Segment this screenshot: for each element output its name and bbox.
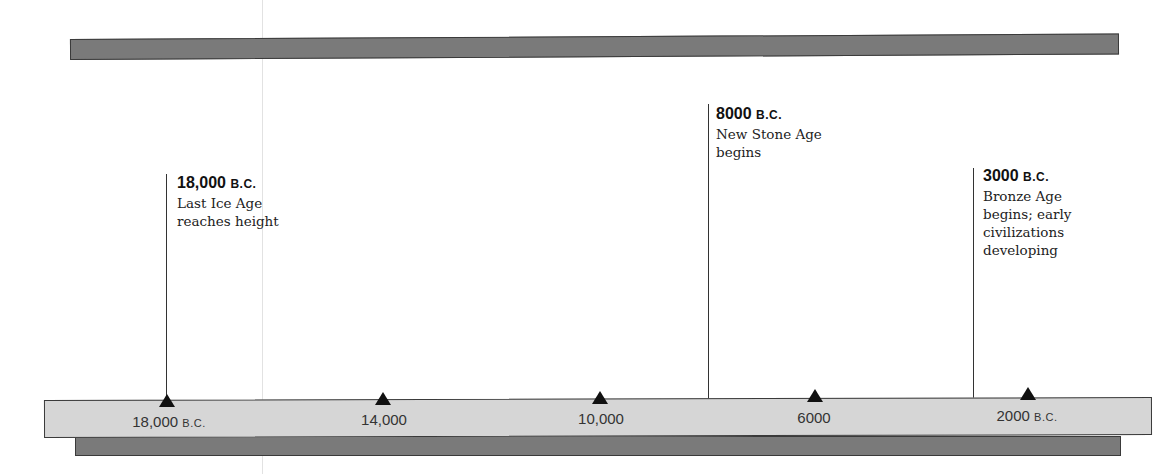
- event-description: begins: [716, 143, 822, 161]
- event-date: 3000 B.C.: [983, 166, 1072, 187]
- top-decorative-bar: [70, 34, 1119, 60]
- tick-label-2000: 2000 B.C.: [997, 407, 1058, 424]
- event-leader-line: [166, 174, 167, 402]
- tick-marker-icon: [1020, 387, 1036, 400]
- event-leader-line: [973, 168, 974, 400]
- tick-label-10000: 10,000: [578, 410, 624, 427]
- tick-marker-icon: [159, 394, 175, 407]
- tick-marker-icon: [807, 389, 823, 402]
- event-description: Last Ice Age: [177, 194, 279, 212]
- event-18000bc: 18,000 B.C. Last Ice Age reaches height: [177, 173, 279, 230]
- tick-marker-icon: [375, 392, 391, 405]
- event-3000bc: 3000 B.C. Bronze Age begins; early civil…: [983, 166, 1072, 259]
- event-description: New Stone Age: [716, 125, 822, 143]
- event-description: developing: [983, 241, 1072, 259]
- tick-marker-icon: [592, 391, 608, 404]
- tick-label-6000: 6000: [797, 409, 830, 426]
- tick-label-18000: 18,000 B.C.: [132, 413, 205, 430]
- event-description: Bronze Age: [983, 187, 1072, 205]
- event-date: 8000 B.C.: [716, 104, 822, 125]
- event-description: reaches height: [177, 212, 279, 230]
- event-8000bc: 8000 B.C. New Stone Age begins: [716, 104, 822, 161]
- timeline-shadow-bar: [75, 436, 1121, 456]
- event-description: civilizations: [983, 223, 1072, 241]
- tick-label-14000: 14,000: [361, 411, 407, 428]
- event-leader-line: [708, 104, 709, 402]
- event-description: begins; early: [983, 205, 1072, 223]
- event-date: 18,000 B.C.: [177, 173, 279, 194]
